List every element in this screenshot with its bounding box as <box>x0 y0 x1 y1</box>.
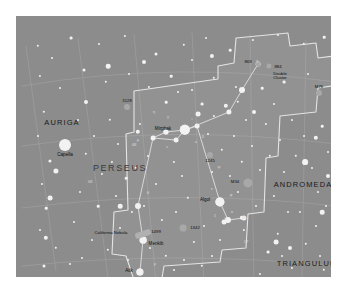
field-star <box>283 81 286 84</box>
gridline-ra <box>78 38 108 277</box>
field-star <box>325 205 327 207</box>
deep-sky-label: M76 <box>315 85 323 89</box>
deep-sky-label: M34 <box>231 180 239 184</box>
field-star <box>115 195 117 197</box>
bright-star <box>274 240 279 245</box>
bayer-label: χ <box>256 59 258 63</box>
bayer-label: κ <box>195 140 197 144</box>
field-star <box>73 221 75 223</box>
bayer-label: ζ <box>224 217 226 221</box>
field-star <box>261 87 264 90</box>
bright-star <box>48 196 53 201</box>
field-star <box>191 89 193 91</box>
field-star <box>51 57 53 59</box>
field-star <box>207 133 209 135</box>
field-star <box>281 255 283 257</box>
field-star <box>143 205 145 207</box>
bayer-label: ι <box>192 117 193 121</box>
bayer-label: φ <box>230 193 233 197</box>
field-star <box>127 259 129 261</box>
bayer-label: 48 <box>132 143 137 147</box>
deep-sky-object <box>180 225 187 232</box>
field-star <box>283 171 285 173</box>
field-star <box>279 139 281 141</box>
field-star <box>255 205 257 207</box>
field-star <box>70 37 73 40</box>
field-star <box>98 43 100 45</box>
field-star <box>177 91 179 93</box>
bright-star <box>106 64 111 69</box>
field-star <box>303 135 305 137</box>
constellation-label: AURIGA <box>44 119 79 127</box>
field-star <box>327 151 329 153</box>
deep-sky-label: 884 <box>274 65 281 69</box>
field-star <box>191 59 193 61</box>
field-star <box>287 211 289 213</box>
bayer-label: 16 <box>242 216 247 220</box>
field-star <box>43 265 46 268</box>
bayer-label: ν <box>166 145 168 149</box>
figure-star <box>195 124 200 129</box>
bright-star <box>288 246 292 250</box>
bright-star <box>196 112 201 117</box>
star-label: Atik <box>125 269 133 274</box>
field-star <box>81 257 83 259</box>
field-star <box>307 73 309 75</box>
bayer-label: ξ <box>214 214 216 218</box>
star-label: Algol <box>200 198 210 203</box>
field-star <box>211 171 213 173</box>
field-star <box>175 211 177 213</box>
figure-star <box>151 136 156 141</box>
field-star <box>201 103 204 106</box>
field-star <box>149 247 151 249</box>
bayer-label: η <box>153 110 155 114</box>
bright-star <box>320 210 325 215</box>
field-star <box>319 255 321 257</box>
field-star <box>245 119 247 121</box>
field-star <box>59 87 61 89</box>
deep-sky-object <box>124 104 130 110</box>
deep-sky-label: 1499 <box>151 230 161 234</box>
named-star <box>59 139 71 151</box>
figure-star <box>174 138 179 143</box>
figure-star <box>135 203 141 209</box>
deep-sky-label: 869 <box>244 60 251 64</box>
field-star <box>259 169 261 171</box>
field-star <box>37 135 39 137</box>
bayer-label: γ <box>167 115 169 119</box>
field-star <box>229 49 232 52</box>
bayer-label: 58 <box>88 180 93 184</box>
field-star <box>79 191 81 193</box>
field-star <box>277 34 279 36</box>
deep-sky-label: DoubleCluster <box>273 72 287 81</box>
bright-star <box>142 60 146 64</box>
field-star <box>173 269 175 271</box>
field-star <box>45 207 48 210</box>
star-label: Mirphak <box>155 127 171 132</box>
field-star <box>273 103 275 105</box>
deep-sky-label: 1245 <box>205 159 215 163</box>
bayer-label: ψ <box>218 165 221 169</box>
bright-star <box>302 159 308 165</box>
field-star <box>119 227 121 229</box>
star-label: Capella <box>57 153 73 158</box>
constellation-label: ANDROMEDA <box>274 181 331 189</box>
field-star <box>117 143 119 145</box>
field-star <box>93 135 95 137</box>
field-star <box>267 251 270 254</box>
field-star <box>39 229 41 231</box>
field-star <box>311 167 313 169</box>
star-chart: AURIGAPERSEUSANDROMEDATRIANGULUMCapellaM… <box>16 16 331 277</box>
star-label: Menkib <box>149 242 164 247</box>
bayer-label: ο <box>231 210 233 214</box>
deep-sky-label: 1342 <box>190 226 200 230</box>
field-star <box>147 155 149 157</box>
constellation-label: TRIANGULUM <box>277 260 331 268</box>
field-star <box>125 177 128 180</box>
field-star <box>203 225 205 227</box>
field-star <box>83 69 86 72</box>
field-star <box>170 75 173 78</box>
gridline-ra <box>26 46 56 271</box>
field-star <box>155 53 158 56</box>
field-star <box>183 259 185 261</box>
